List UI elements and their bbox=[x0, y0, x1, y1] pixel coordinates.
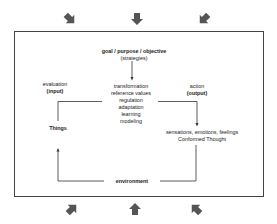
center-item-reference-values: reference values bbox=[111, 90, 151, 97]
output-label: (output) bbox=[187, 90, 207, 97]
goal-subtitle: (strategies) bbox=[121, 55, 148, 62]
arrow-up-left-icon bbox=[188, 201, 205, 218]
sensations-node: sensations, emotions, feelings bbox=[166, 129, 238, 136]
action-label: action bbox=[190, 83, 204, 90]
center-item-transformation: transformation bbox=[114, 83, 148, 90]
center-item-learning: learning bbox=[121, 111, 140, 118]
input-label: (input) bbox=[47, 88, 64, 95]
goal-title: goal / purpose / objective bbox=[102, 48, 167, 55]
environment-label: environment bbox=[116, 178, 148, 185]
center-item-modeling: modeling bbox=[120, 118, 142, 125]
evaluation-label: evaluation bbox=[43, 81, 68, 88]
things-node: Things bbox=[49, 125, 67, 132]
diagram-canvas: goal / purpose / objective (strategies) … bbox=[0, 0, 277, 224]
arrow-down-icon bbox=[131, 13, 143, 25]
center-item-regulation: regulation bbox=[119, 97, 143, 104]
conformed-thought-node: Conformed Thought bbox=[178, 136, 226, 143]
arrow-down-left-icon bbox=[196, 11, 213, 28]
arrow-up-icon bbox=[129, 203, 141, 215]
arrow-up-right-icon bbox=[64, 201, 81, 218]
center-item-adaptation: adaptation bbox=[118, 104, 143, 111]
arrow-down-right-icon bbox=[62, 11, 79, 28]
